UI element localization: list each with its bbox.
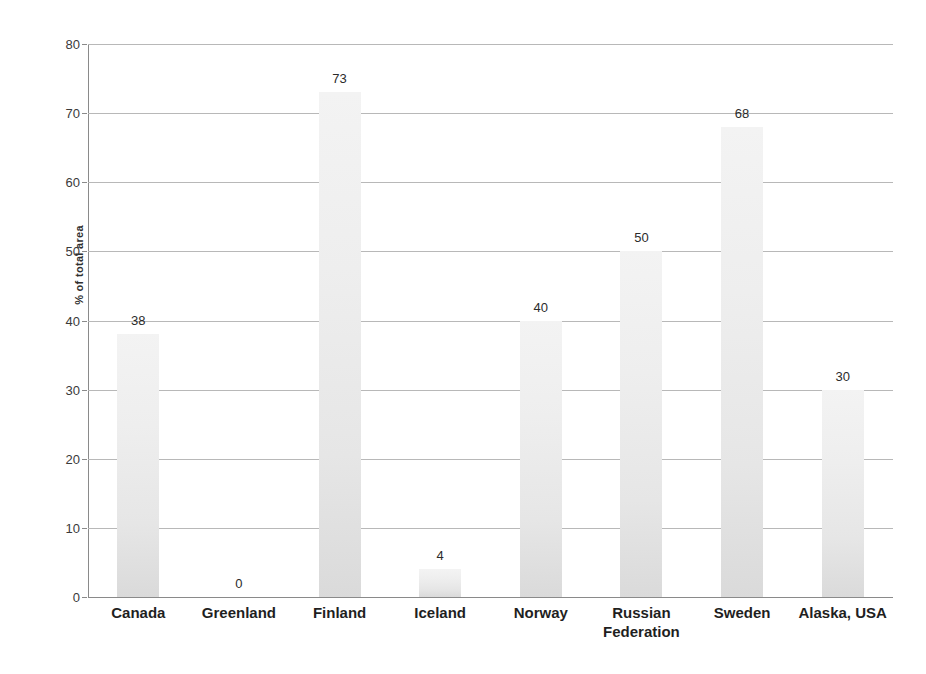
y-tick-label: 30 bbox=[46, 382, 80, 397]
x-tick-label: Finland bbox=[285, 603, 395, 622]
y-tick-mark bbox=[82, 597, 87, 598]
y-axis-tick-labels: 80 70 60 50 40 30 20 10 0 bbox=[40, 44, 80, 597]
bar-value-label: 4 bbox=[437, 548, 444, 563]
bar-group: 30 bbox=[792, 44, 893, 597]
bar bbox=[319, 92, 361, 597]
y-tick-label: 60 bbox=[46, 175, 80, 190]
y-tick-mark bbox=[82, 251, 87, 252]
y-tick-mark bbox=[82, 528, 87, 529]
bar-value-label: 0 bbox=[235, 576, 242, 591]
bar bbox=[419, 569, 461, 597]
y-tick-label: 20 bbox=[46, 451, 80, 466]
bar-value-label: 38 bbox=[131, 313, 145, 328]
y-tick-label: 80 bbox=[46, 37, 80, 52]
bar-group: 73 bbox=[289, 44, 390, 597]
bar-group: 40 bbox=[491, 44, 592, 597]
x-tick-label: Alaska, USA bbox=[788, 603, 898, 622]
x-tick-label: Russian Federation bbox=[586, 603, 696, 641]
y-tick-label: 50 bbox=[46, 244, 80, 259]
y-tick-mark bbox=[82, 113, 87, 114]
y-tick-mark bbox=[82, 44, 87, 45]
y-tick-mark bbox=[82, 182, 87, 183]
bar bbox=[620, 251, 662, 597]
bar-group: 0 bbox=[189, 44, 290, 597]
y-tick-label: 10 bbox=[46, 520, 80, 535]
bar bbox=[721, 127, 763, 597]
bar-group: 38 bbox=[88, 44, 189, 597]
gridline bbox=[88, 597, 893, 598]
bar bbox=[822, 390, 864, 597]
bar bbox=[520, 321, 562, 598]
y-tick-mark bbox=[82, 459, 87, 460]
bar-value-label: 73 bbox=[332, 71, 346, 86]
bar-group: 4 bbox=[390, 44, 491, 597]
y-tick-label: 0 bbox=[46, 590, 80, 605]
x-tick-label: Canada bbox=[83, 603, 193, 622]
x-tick-label: Greenland bbox=[184, 603, 294, 622]
x-tick-label: Iceland bbox=[385, 603, 495, 622]
bar-value-label: 40 bbox=[534, 300, 548, 315]
plot-area: 38073440506830 bbox=[88, 44, 893, 597]
y-tick-label: 70 bbox=[46, 106, 80, 121]
y-tick-label: 40 bbox=[46, 313, 80, 328]
bar bbox=[117, 334, 159, 597]
bar-value-label: 68 bbox=[735, 106, 749, 121]
x-axis-tick-labels: CanadaGreenlandFinlandIcelandNorwayRussi… bbox=[88, 603, 893, 663]
bar-chart-figure: % of total area 80 70 60 50 40 30 20 10 … bbox=[0, 0, 926, 674]
bar-value-label: 50 bbox=[634, 230, 648, 245]
bar-group: 50 bbox=[591, 44, 692, 597]
bar-group: 68 bbox=[692, 44, 793, 597]
y-tick-mark bbox=[82, 390, 87, 391]
x-tick-label: Norway bbox=[486, 603, 596, 622]
bar-value-label: 30 bbox=[835, 369, 849, 384]
x-tick-label: Sweden bbox=[687, 603, 797, 622]
y-tick-mark bbox=[82, 321, 87, 322]
